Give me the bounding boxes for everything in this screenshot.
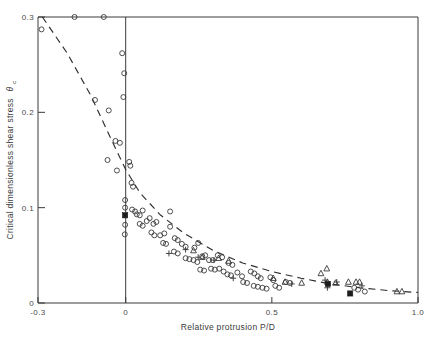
x-tick-label: -0.3	[30, 308, 46, 317]
y-axis-ticks	[38, 17, 45, 303]
data-point-open-circle	[228, 273, 233, 278]
data-point-open-circle	[137, 213, 142, 218]
data-point-open-circle	[168, 209, 173, 214]
x-axis-title: Relative protrusion P/D	[181, 322, 275, 332]
data-point-plus	[289, 281, 295, 287]
series-open-circle	[39, 15, 367, 295]
y-tick-label: 0.1	[22, 204, 34, 213]
data-point-open-circle	[106, 108, 111, 113]
scatter-plot: -0.300.51.0 00.10.20.3 Relative protrusi…	[0, 0, 433, 337]
data-point-open-circle	[123, 198, 128, 203]
data-point-open-circle	[123, 222, 128, 227]
data-point-plus	[230, 275, 236, 281]
data-point-open-circle	[162, 231, 167, 236]
data-point-open-circle	[147, 216, 152, 221]
series-filled-square	[123, 213, 353, 296]
data-point-open-circle	[168, 224, 173, 229]
data-point-open-circle	[164, 241, 169, 246]
data-point-filled-square	[325, 281, 330, 286]
y-tick-label: 0.2	[22, 108, 34, 117]
data-point-filled-square	[348, 291, 353, 296]
data-point-open-circle	[225, 272, 230, 277]
data-point-open-triangle	[324, 265, 330, 270]
dashed-trend-curve	[42, 17, 418, 293]
data-point-open-triangle	[399, 288, 405, 293]
data-point-open-circle	[105, 158, 110, 163]
data-point-open-circle	[114, 168, 119, 173]
data-point-open-circle	[149, 230, 154, 235]
x-tick-label: 0.5	[266, 308, 278, 317]
x-tick-label: 1.0	[412, 308, 424, 317]
data-point-open-circle	[117, 140, 122, 145]
data-point-open-circle	[235, 270, 240, 275]
data-point-open-circle	[121, 95, 126, 100]
chart-figure: -0.300.51.0 00.10.20.3 Relative protrusi…	[0, 0, 433, 337]
data-point-open-circle	[120, 51, 125, 56]
data-point-open-triangle	[318, 270, 324, 275]
y-axis-tick-labels: 00.10.20.3	[22, 13, 34, 308]
data-point-open-circle	[362, 289, 367, 294]
data-point-open-circle	[123, 205, 128, 210]
y-axis-title: Critical dimensionless shear stress θ c	[5, 81, 17, 240]
data-point-open-circle	[140, 208, 145, 213]
x-tick-label: 0	[123, 308, 128, 317]
data-point-open-triangle	[299, 280, 305, 285]
y-axis-title-text: Critical dimensionless shear stress θ c	[5, 81, 17, 240]
x-axis-tick-labels: -0.300.51.0	[30, 308, 424, 317]
data-point-open-circle	[122, 232, 127, 237]
data-point-open-circle	[240, 274, 245, 279]
x-axis-ticks	[38, 297, 418, 303]
data-point-filled-square	[123, 213, 128, 218]
data-point-open-circle	[152, 233, 157, 238]
y-tick-label: 0.3	[22, 13, 34, 22]
data-point-open-circle	[39, 27, 44, 32]
data-point-open-triangle	[346, 279, 352, 284]
y-tick-label: 0	[29, 299, 34, 308]
data-point-open-circle	[144, 219, 149, 224]
x-axis-title-text: Relative protrusion P/D	[181, 322, 275, 332]
